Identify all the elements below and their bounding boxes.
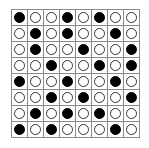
empty-circle-icon [30,60,41,71]
grid-cell [92,58,108,74]
empty-circle-icon [94,76,105,87]
empty-circle-icon [14,28,25,39]
grid-cell [76,42,92,58]
empty-circle-icon [110,44,121,55]
grid-cell [76,90,92,106]
grid-cell [28,42,44,58]
filled-circle-icon [14,124,25,135]
grid-cell [124,90,140,106]
grid-cell [44,42,60,58]
grid-cell [28,122,44,138]
empty-circle-icon [46,108,57,119]
grid-cell [60,58,76,74]
dot-grid [11,9,140,138]
empty-circle-icon [126,76,137,87]
filled-circle-icon [62,12,73,23]
filled-circle-icon [62,28,73,39]
grid-cell [124,58,140,74]
empty-circle-icon [62,60,73,71]
grid-cell [60,10,76,26]
empty-circle-icon [46,44,57,55]
filled-circle-icon [62,76,73,87]
grid-cell [124,122,140,138]
filled-circle-icon [110,124,121,135]
empty-circle-icon [14,44,25,55]
grid-cell [92,74,108,90]
grid-cell [92,42,108,58]
empty-circle-icon [62,124,73,135]
empty-circle-icon [94,124,105,135]
empty-circle-icon [110,60,121,71]
empty-circle-icon [14,60,25,71]
grid-cell [92,106,108,122]
grid-cell [76,122,92,138]
empty-circle-icon [78,76,89,87]
grid-cell [12,10,28,26]
grid-cell [60,122,76,138]
filled-circle-icon [94,108,105,119]
empty-circle-icon [78,60,89,71]
empty-circle-icon [78,124,89,135]
empty-circle-icon [62,92,73,103]
grid-cell [108,106,124,122]
filled-circle-icon [46,92,57,103]
empty-circle-icon [78,108,89,119]
grid-cell [124,106,140,122]
grid-cell [92,122,108,138]
grid-cell [44,90,60,106]
grid-cell [60,74,76,90]
grid-cell [92,26,108,42]
grid-cell [92,10,108,26]
grid-cell [108,74,124,90]
grid-cell [12,26,28,42]
empty-circle-icon [46,28,57,39]
grid-cell [12,122,28,138]
grid-cell [12,90,28,106]
grid-cell [124,10,140,26]
filled-circle-icon [46,124,57,135]
grid-cell [12,74,28,90]
empty-circle-icon [126,108,137,119]
grid-cell [108,26,124,42]
empty-circle-icon [94,92,105,103]
grid-cell [76,26,92,42]
filled-circle-icon [126,44,137,55]
empty-circle-icon [94,28,105,39]
grid-cell [124,74,140,90]
grid-cell [60,42,76,58]
empty-circle-icon [46,12,57,23]
empty-circle-icon [30,76,41,87]
grid-cell [28,26,44,42]
grid-cell [124,42,140,58]
grid-cell [108,10,124,26]
empty-circle-icon [30,124,41,135]
empty-circle-icon [126,124,137,135]
empty-circle-icon [46,76,57,87]
empty-circle-icon [78,12,89,23]
grid-cell [124,26,140,42]
grid-cell [12,42,28,58]
filled-circle-icon [78,92,89,103]
filled-circle-icon [14,76,25,87]
grid-cell [44,58,60,74]
grid-cell [108,122,124,138]
empty-circle-icon [30,12,41,23]
filled-circle-icon [94,12,105,23]
empty-circle-icon [62,44,73,55]
grid-cell [60,106,76,122]
empty-circle-icon [126,28,137,39]
empty-circle-icon [110,12,121,23]
grid-cell [28,10,44,26]
grid-cell [44,74,60,90]
grid-cell [76,74,92,90]
empty-circle-icon [94,44,105,55]
filled-circle-icon [46,60,57,71]
empty-circle-icon [78,28,89,39]
empty-circle-icon [14,92,25,103]
grid-cell [76,10,92,26]
empty-circle-icon [126,12,137,23]
grid-cell [60,90,76,106]
grid-cell [60,26,76,42]
empty-circle-icon [30,92,41,103]
filled-circle-icon [62,108,73,119]
